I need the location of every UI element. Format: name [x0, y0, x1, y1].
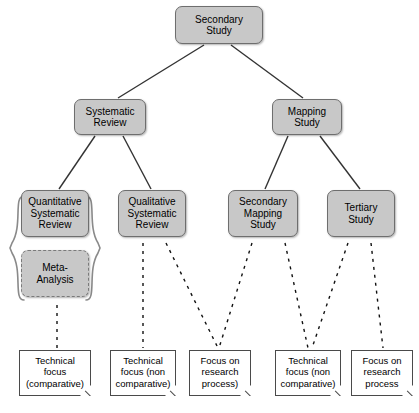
link-tertiary-to-technical-non-comparative [312, 243, 348, 348]
page-fold-icon [402, 385, 413, 396]
annotation-label: Technical focus (non comparative) [116, 355, 171, 390]
node-systematic-review[interactable]: Systematic Review [74, 99, 146, 135]
annotation-technical-focus-non-comparative-2[interactable]: Technical focus (non comparative) [275, 350, 341, 396]
edge-systematic-to-quant [59, 136, 95, 189]
page-fold-icon [240, 385, 251, 396]
diagram-canvas: Secondary StudySystematic ReviewMapping … [0, 0, 419, 413]
edge-mapping-to-tertiary [320, 136, 360, 189]
edge-mapping-to-secondary-mapping [265, 136, 288, 189]
link-secondary-mapping-to-technical [285, 243, 308, 348]
node-secondary-study[interactable]: Secondary Study [175, 6, 263, 44]
node-quantitative-systematic-review[interactable]: Quantitative Systematic Review [21, 190, 89, 237]
annotation-focus-on-research-process-1[interactable]: Focus on research process) [189, 350, 251, 396]
link-qual-to-focus-research-process [166, 243, 218, 348]
node-secondary-mapping-study[interactable]: Secondary Mapping Study [228, 190, 298, 237]
annotation-focus-on-research-process-2[interactable]: Focus on research process [351, 350, 413, 396]
annotation-label: Focus on research process [362, 355, 401, 390]
annotation-label: Technical focus (comparative) [26, 355, 84, 390]
annotation-label: Focus on research process) [200, 355, 239, 390]
node-mapping-study[interactable]: Mapping Study [272, 99, 342, 135]
annotation-technical-focus-non-comparative-1[interactable]: Technical focus (non comparative) [110, 350, 176, 396]
link-secondary-mapping-to-focus-process [219, 243, 252, 348]
node-qualitative-systematic-review[interactable]: Qualitative Systematic Review [118, 190, 186, 237]
link-tertiary-to-focus-research-process [371, 243, 383, 348]
node-tertiary-study[interactable]: Tertiary Study [327, 190, 395, 237]
edge-secondary-to-mapping [231, 45, 303, 98]
edge-systematic-to-qual [123, 136, 151, 189]
edge-secondary-to-systematic [118, 45, 204, 98]
dashed-link-group [57, 243, 383, 348]
annotation-label: Technical focus (non comparative) [281, 355, 336, 390]
node-meta-analysis[interactable]: Meta- Analysis [21, 250, 89, 297]
annotation-technical-focus-comparative[interactable]: Technical focus (comparative) [19, 350, 91, 396]
